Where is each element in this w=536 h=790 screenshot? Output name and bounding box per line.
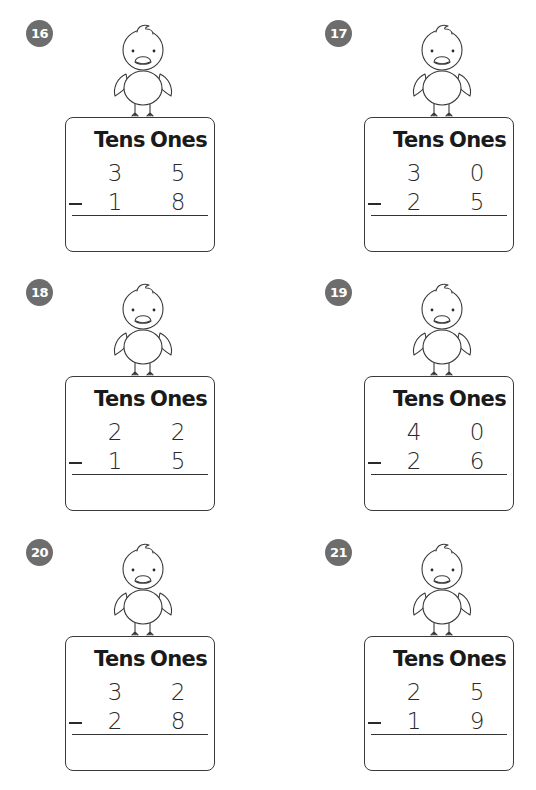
subtraction-problem-17: 17 Tens Ones 3 0 2 [299,0,536,262]
subtraction-problem-20: 20 Tens Ones 3 2 2 [0,519,268,781]
minuend-tens-digit: 4 [402,419,426,445]
subtrahend-tens-digit: 2 [402,448,426,474]
answer-area[interactable] [371,739,507,765]
subtrahend-ones-digit: 5 [465,189,489,215]
duck-icon [407,277,477,377]
answer-rule [72,215,208,216]
subtrahend-ones-digit: 8 [166,189,190,215]
subtrahend-tens-digit: 2 [103,708,127,734]
answer-area[interactable] [371,479,507,505]
minus-sign-icon [368,722,381,724]
place-value-box: Tens Ones 2 2 1 5 [65,376,215,511]
minuend-tens-digit: 3 [103,160,127,186]
ones-header: Ones [150,647,207,671]
problem-number-badge: 20 [26,539,53,566]
tens-header: Tens [94,647,145,671]
duck-icon [407,537,477,637]
ones-header: Ones [449,647,506,671]
problem-number-badge: 17 [325,20,352,47]
answer-area[interactable] [72,479,208,505]
minuend-tens-digit: 2 [103,419,127,445]
subtrahend-ones-digit: 5 [166,448,190,474]
minus-sign-icon [69,203,82,205]
subtrahend-ones-digit: 8 [166,708,190,734]
minuend-tens-digit: 2 [402,679,426,705]
subtraction-problem-16: 16 Tens Ones 3 5 1 [0,0,268,262]
problem-number-badge: 18 [26,279,53,306]
duck-icon [108,277,178,377]
subtrahend-ones-digit: 6 [465,448,489,474]
duck-icon [407,18,477,118]
place-value-box: Tens Ones 2 5 1 9 [364,636,514,771]
minuend-ones-digit: 2 [166,679,190,705]
place-value-box: Tens Ones 3 5 1 8 [65,117,215,252]
problem-number-badge: 21 [325,539,352,566]
minuend-tens-digit: 3 [402,160,426,186]
tens-header: Tens [94,387,145,411]
minuend-ones-digit: 5 [465,679,489,705]
tens-header: Tens [393,387,444,411]
answer-area[interactable] [72,739,208,765]
place-value-box: Tens Ones 3 0 2 5 [364,117,514,252]
minus-sign-icon [368,462,381,464]
tens-header: Tens [94,128,145,152]
answer-rule [371,734,507,735]
tens-header: Tens [393,128,444,152]
ones-header: Ones [449,387,506,411]
minuend-tens-digit: 3 [103,679,127,705]
minuend-ones-digit: 2 [166,419,190,445]
answer-area[interactable] [72,220,208,246]
place-value-box: Tens Ones 4 0 2 6 [364,376,514,511]
ones-header: Ones [449,128,506,152]
answer-rule [72,734,208,735]
subtrahend-tens-digit: 1 [103,448,127,474]
problem-number-badge: 16 [26,20,53,47]
subtraction-problem-18: 18 Tens Ones 2 2 1 [0,259,268,521]
place-value-box: Tens Ones 3 2 2 8 [65,636,215,771]
minuend-ones-digit: 5 [166,160,190,186]
subtrahend-tens-digit: 1 [103,189,127,215]
problem-number-badge: 19 [325,279,352,306]
subtrahend-tens-digit: 1 [402,708,426,734]
answer-rule [371,215,507,216]
subtraction-problem-19: 19 Tens Ones 4 0 2 [299,259,536,521]
answer-rule [72,474,208,475]
subtrahend-tens-digit: 2 [402,189,426,215]
minus-sign-icon [69,462,82,464]
subtrahend-ones-digit: 9 [465,708,489,734]
minus-sign-icon [69,722,82,724]
answer-rule [371,474,507,475]
ones-header: Ones [150,387,207,411]
minuend-ones-digit: 0 [465,419,489,445]
ones-header: Ones [150,128,207,152]
tens-header: Tens [393,647,444,671]
minus-sign-icon [368,203,381,205]
duck-icon [108,18,178,118]
duck-icon [108,537,178,637]
subtraction-problem-21: 21 Tens Ones 2 5 1 [299,519,536,781]
minuend-ones-digit: 0 [465,160,489,186]
answer-area[interactable] [371,220,507,246]
